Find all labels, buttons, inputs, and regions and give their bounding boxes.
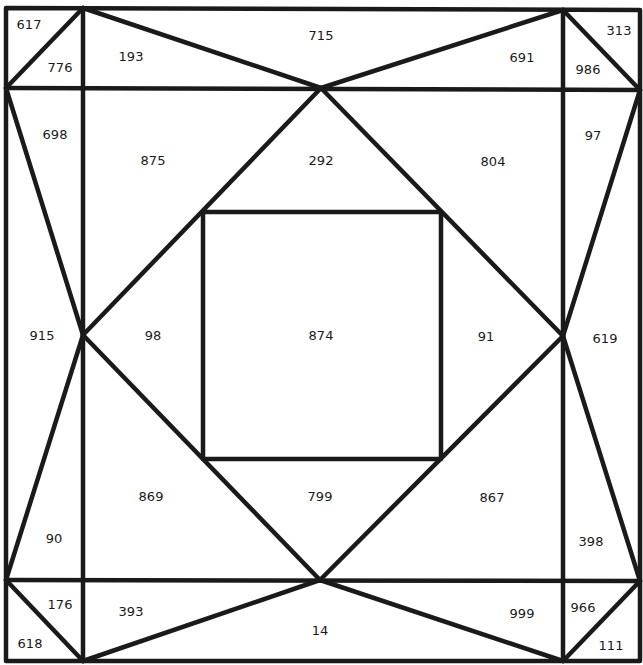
region-label: 804 [481, 155, 506, 168]
region-label: 986 [576, 63, 601, 76]
region-label: 715 [309, 29, 334, 42]
region-label: 98 [145, 329, 162, 342]
region-label: 869 [139, 490, 164, 503]
region-label: 176 [48, 598, 73, 611]
region-label: 91 [478, 330, 495, 343]
region-label: 193 [119, 50, 144, 63]
region-label: 398 [579, 535, 604, 548]
bottom-left-fan-line [83, 580, 320, 661]
region-label: 691 [510, 51, 535, 64]
region-label: 617 [17, 18, 42, 31]
region-label: 799 [308, 490, 333, 503]
region-label: 776 [48, 61, 73, 74]
region-label: 874 [309, 329, 334, 342]
region-label: 619 [593, 332, 618, 345]
left-lower-fan-line [6, 335, 83, 580]
region-label: 618 [18, 637, 43, 650]
region-label: 875 [141, 154, 166, 167]
region-label: 999 [510, 607, 535, 620]
region-label: 915 [30, 329, 55, 342]
region-label: 313 [607, 24, 632, 37]
region-label: 90 [46, 532, 63, 545]
region-label: 393 [119, 605, 144, 618]
bottom-right-fan-line [320, 580, 563, 661]
region-label: 97 [585, 129, 602, 142]
region-label: 111 [599, 639, 624, 652]
left-upper-fan-line [6, 88, 83, 335]
region-label: 14 [312, 624, 329, 637]
region-label: 292 [309, 154, 334, 167]
region-label: 867 [480, 491, 505, 504]
region-label: 966 [571, 601, 596, 614]
region-label: 698 [43, 128, 68, 141]
right-upper-fan-line [563, 90, 640, 336]
